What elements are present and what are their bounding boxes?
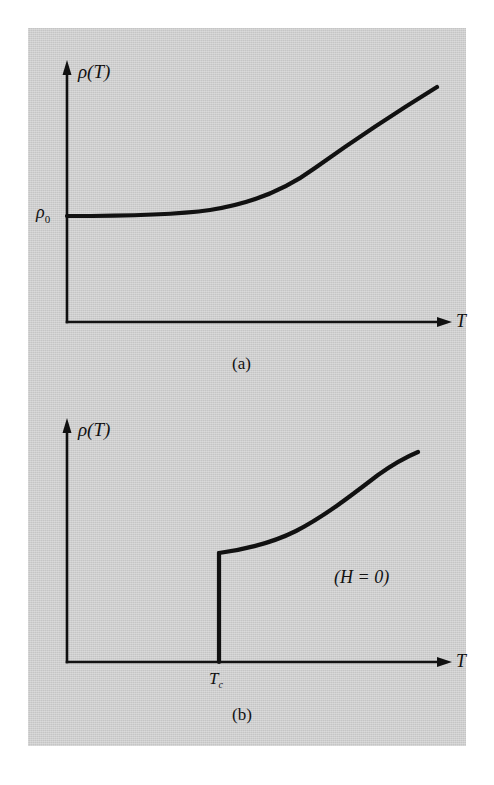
panel-a-rho-zero-label: ρ0 (36, 203, 50, 225)
panel-b-field-annotation: (H = 0) (334, 568, 389, 586)
panel-a-x-axis-label: T (456, 312, 466, 330)
panel-b-y-axis-label: ρ(T) (78, 420, 110, 439)
figure-root: ρ(T) ρ0 T (a) ρ(T) Tc (H = 0) T (b) (0, 0, 494, 785)
panel-b-critical-temperature-label: Tc (209, 670, 223, 690)
panel-a-rho-zero-symbol: ρ (36, 202, 45, 222)
panel-a-rho-zero-subscript: 0 (45, 213, 51, 225)
panel-a-y-axis-label: ρ(T) (78, 62, 110, 81)
panel-a-caption: (a) (232, 355, 251, 372)
panel-b-x-axis-label: T (456, 652, 466, 670)
panel-b-caption: (b) (232, 706, 252, 723)
panel-b-tc-subscript: c (218, 679, 222, 690)
figure-panel-background (28, 28, 466, 746)
